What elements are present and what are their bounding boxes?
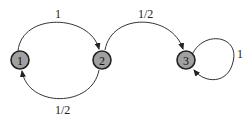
edge-2-to-1 xyxy=(22,70,99,99)
edge-2-to-3 xyxy=(105,22,183,50)
node-3: 3 xyxy=(177,51,195,69)
markov-diagram: 1 1/2 1/2 1 1 2 3 xyxy=(0,0,251,123)
node-3-label: 3 xyxy=(183,54,189,68)
edge-1-to-2 xyxy=(18,22,99,51)
node-2-label: 2 xyxy=(99,54,105,68)
edge-label-2-to-3: 1/2 xyxy=(138,7,153,21)
edge-label-2-to-1: 1/2 xyxy=(55,103,70,117)
node-1: 1 xyxy=(11,51,29,69)
edge-label-1-to-2: 1 xyxy=(55,7,61,21)
edge-3-to-3 xyxy=(193,39,234,80)
node-1-label: 1 xyxy=(17,54,23,68)
node-2: 2 xyxy=(93,51,111,69)
edge-label-3-to-3: 1 xyxy=(237,47,243,61)
